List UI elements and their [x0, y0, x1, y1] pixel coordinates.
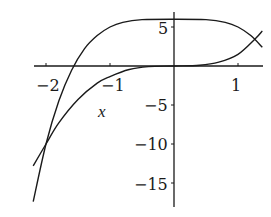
x-axis-label: x — [97, 102, 106, 121]
y-tick-label-m10: −10 — [134, 135, 168, 154]
function-plot: −2 −1 1 5 −5 −10 −15 x — [0, 0, 271, 217]
y-tick-label-5: 5 — [158, 19, 168, 38]
y-tick-label-m5: −5 — [144, 96, 168, 115]
x-tick-label-m2: −2 — [36, 76, 60, 95]
y-tick-label-m15: −15 — [134, 175, 168, 194]
x-tick-label-1: 1 — [231, 76, 241, 95]
